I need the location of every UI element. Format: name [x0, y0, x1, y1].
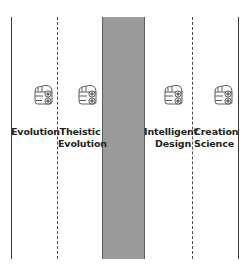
category-label-theistic-evolution: Theistic Evolution — [58, 126, 102, 149]
right-inner-boundary-line — [192, 17, 193, 259]
left-outer-boundary-line — [11, 17, 12, 259]
diagram-canvas: Evolution Theistic Evolution Intelligent… — [0, 0, 250, 274]
car-icon — [29, 79, 61, 111]
central-divide-band — [102, 17, 145, 259]
category-label-evolution: Evolution — [11, 126, 57, 138]
category-label-creation-science: Creation Science — [194, 126, 238, 149]
car-icon — [73, 79, 105, 111]
car-icon — [209, 79, 241, 111]
category-label-intelligent-design: Intelligent Design — [144, 126, 191, 149]
car-icon — [159, 79, 191, 111]
right-outer-boundary-line — [238, 17, 239, 259]
